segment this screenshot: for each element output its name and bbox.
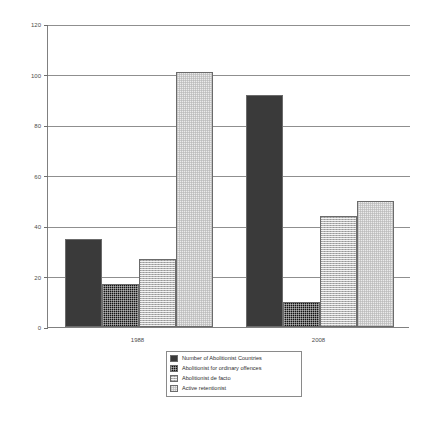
y-tick-label: 100 <box>31 73 41 79</box>
legend-item: Number of Abolitionist Countries <box>170 354 298 363</box>
legend-swatch-series-3 <box>170 385 178 392</box>
y-tick-mark <box>44 227 48 228</box>
legend-item: Active retentionist <box>170 384 298 393</box>
y-tick-label: 40 <box>34 224 41 230</box>
chart-legend: Number of Abolitionist Countries Aboliti… <box>166 351 302 397</box>
bar <box>357 201 394 327</box>
y-tick-mark <box>44 328 48 329</box>
legend-label-series-2: Abolitionist de facto <box>182 376 231 382</box>
bar <box>176 72 213 327</box>
legend-swatch-series-0 <box>170 355 178 362</box>
legend-label-series-1: Abolitionist for ordinary offences <box>182 366 262 372</box>
y-tick-mark <box>44 75 48 76</box>
legend-item: Abolitionist for ordinary offences <box>170 364 298 373</box>
y-tick-mark <box>44 277 48 278</box>
legend-swatch-series-1 <box>170 365 178 372</box>
bar <box>102 284 139 327</box>
y-tick-mark <box>44 25 48 26</box>
x-tick-label: 1988 <box>47 337 228 343</box>
bar <box>246 95 283 327</box>
gridline <box>48 25 410 26</box>
legend-label-series-3: Active retentionist <box>182 386 226 392</box>
x-tick-label: 2008 <box>228 337 409 343</box>
y-tick-mark <box>44 126 48 127</box>
bar <box>65 239 102 327</box>
y-axis: 020406080100120 <box>0 25 41 328</box>
gridline <box>48 176 410 177</box>
y-tick-label: 80 <box>34 123 41 129</box>
bar <box>139 259 176 327</box>
y-tick-label: 20 <box>34 275 41 281</box>
y-tick-label: 60 <box>34 174 41 180</box>
legend-swatch-series-2 <box>170 375 178 382</box>
bar <box>320 216 357 327</box>
legend-label-series-0: Number of Abolitionist Countries <box>182 356 262 362</box>
plot-area <box>47 25 409 328</box>
gridline <box>48 75 410 76</box>
y-tick-label: 0 <box>38 325 41 331</box>
legend-item: Abolitionist de facto <box>170 374 298 383</box>
bar <box>283 302 320 327</box>
gridline <box>48 126 410 127</box>
y-tick-label: 120 <box>31 22 41 28</box>
y-tick-mark <box>44 176 48 177</box>
bar-chart: 020406080100120 19882008 Number of Aboli… <box>0 0 447 423</box>
